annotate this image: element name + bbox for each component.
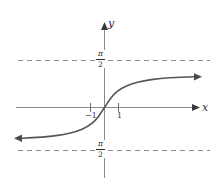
x-axis-arrow-icon (192, 104, 200, 111)
asymptote-label-upper: π 2 (95, 50, 106, 68)
x-tick-label-minus-one: −1 (85, 112, 97, 120)
curve-arrow-left-icon (14, 135, 22, 142)
asymptote-upper-denominator: 2 (96, 60, 105, 68)
asymptote-upper-numerator: π (96, 50, 105, 58)
asymptote-lower-numerator: π (96, 140, 105, 148)
asymptote-label-lower: π 2 (95, 140, 106, 158)
x-axis-label: x (202, 102, 208, 113)
y-axis-label: y (108, 18, 114, 29)
y-axis-arrow-icon (101, 22, 108, 30)
asymptote-lower-denominator: 2 (96, 150, 105, 158)
x-tick-label-plus-one: 1 (117, 112, 122, 120)
curve-arrow-right-icon (194, 73, 202, 80)
arctan-graph-figure: y x −1 1 π 2 π 2 (0, 0, 216, 185)
